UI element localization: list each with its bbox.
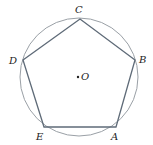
vertex-label-e: E	[35, 131, 44, 142]
vertex-label-c: C	[75, 4, 83, 15]
center-label-o: O	[81, 71, 89, 82]
vertex-label-b: B	[138, 54, 146, 65]
regular-pentagon	[23, 19, 135, 127]
vertex-label-d: D	[8, 55, 17, 66]
pentagon-figure: O A B C D E	[0, 0, 153, 145]
vertex-label-a: A	[110, 131, 118, 142]
center-point	[77, 76, 79, 78]
diagram-canvas: O A B C D E	[0, 0, 153, 145]
